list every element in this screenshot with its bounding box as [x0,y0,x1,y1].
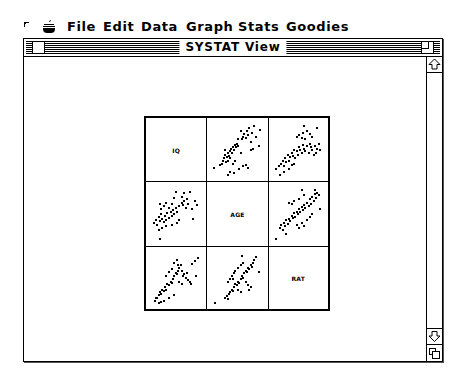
menu-bar: File Edit Data Graph Stats Goodies [0,18,466,36]
scatter-panel-1-0 [145,181,207,246]
data-point [189,281,191,283]
data-point [296,211,298,213]
data-point [283,222,285,224]
data-point [247,134,249,136]
data-point [250,141,252,143]
data-point [245,281,247,283]
data-point [234,160,236,162]
data-point [299,149,301,151]
size-box[interactable] [427,346,442,361]
data-point [181,283,183,285]
data-point [283,171,285,173]
data-point [237,267,239,269]
data-point [258,145,260,147]
data-point [175,207,177,209]
data-point [306,202,308,204]
scroll-down-button[interactable] [427,328,442,345]
data-point [314,189,316,191]
data-point [241,255,243,257]
zoom-box-icon [422,42,429,49]
diagonal-cell-iq: IQ [145,117,207,182]
data-point [237,289,239,291]
menu-goodies[interactable]: Goodies [286,20,349,34]
data-point [224,149,226,151]
data-point [195,275,197,277]
data-point [165,225,167,227]
data-point [280,163,282,165]
data-point [319,208,321,210]
variable-label: AGE [207,210,267,217]
data-point [161,227,163,229]
data-point [302,144,304,146]
data-point [310,146,312,148]
data-point [173,213,175,215]
data-point [255,256,257,258]
data-point [311,196,313,198]
data-point [154,300,156,302]
data-point [315,197,317,199]
data-point [228,155,230,157]
data-point [298,208,300,210]
menu-edit[interactable]: Edit [103,20,134,34]
data-point [314,145,316,147]
zoom-box-button[interactable] [421,41,434,54]
menu-stats[interactable]: Stats [238,20,279,34]
data-point [191,263,193,265]
data-point [306,219,308,221]
systat-view-window: SYSTAT View IQAGERAT [23,38,443,362]
title-bar[interactable]: SYSTAT View [24,39,442,57]
data-point [160,213,162,215]
data-point [240,130,242,132]
data-point [178,205,180,207]
data-point [246,271,248,273]
data-point [232,290,234,292]
data-point [155,219,157,221]
data-point [229,157,231,159]
menu-file[interactable]: File [67,20,96,34]
data-point [223,157,225,159]
data-point [284,225,286,227]
data-point [240,152,242,154]
menu-graph[interactable]: Graph [186,20,233,34]
data-point [296,224,298,226]
data-point [248,289,250,291]
data-point [177,264,179,266]
data-point [233,286,235,288]
data-point [163,205,165,207]
scroll-up-button[interactable] [427,57,442,73]
vertical-scrollbar[interactable] [426,57,442,361]
close-box-button[interactable] [32,41,45,54]
data-point [245,137,247,139]
data-point [297,154,299,156]
data-point [296,150,298,152]
up-arrow-icon [427,57,442,72]
data-point [168,217,170,219]
data-point [178,267,180,269]
data-point [311,136,313,138]
data-point [301,152,303,154]
data-point [165,275,167,277]
data-point [226,295,228,297]
data-point [214,302,216,304]
data-point [227,298,229,300]
data-point [288,168,290,170]
data-point [171,203,173,205]
data-point [231,275,233,277]
data-point [301,222,303,224]
data-point [187,203,189,205]
data-point [298,198,300,200]
apple-menu-icon[interactable] [42,20,56,34]
data-point [232,163,234,165]
data-point [185,207,187,209]
grow-box-icon [427,346,442,361]
data-point [194,260,196,262]
data-point [303,204,305,206]
data-point [251,266,253,268]
menu-data[interactable]: Data [141,20,178,34]
data-point [243,133,245,135]
data-point [301,137,303,139]
scatter-panel-2-0 [145,246,207,310]
data-point [315,152,317,154]
scatter-panel-0-2 [268,117,329,182]
data-point [293,200,295,202]
